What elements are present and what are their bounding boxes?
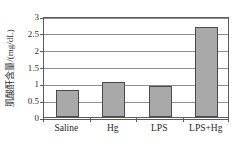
y-axis-tick-mark bbox=[40, 18, 44, 19]
y-axis-tick-label: 2 bbox=[35, 46, 40, 55]
bar-lps-plus-hg bbox=[195, 27, 218, 117]
y-axis-tick-label: 1.5 bbox=[28, 63, 39, 72]
gridline bbox=[44, 18, 228, 19]
x-axis-tick-mark bbox=[228, 118, 229, 122]
x-axis-tick-label: LPS+Hg bbox=[189, 124, 222, 134]
bar-saline bbox=[56, 90, 79, 117]
x-axis-tick-mark bbox=[136, 118, 137, 122]
y-axis-title: 肌酸酐含量/(mg/dL) bbox=[6, 29, 15, 107]
x-axis-tick-mark bbox=[183, 118, 184, 122]
bar-hg bbox=[102, 82, 125, 117]
plot-inner bbox=[44, 18, 228, 117]
plot-area bbox=[43, 17, 229, 118]
x-axis-tick-label: LPS bbox=[151, 124, 167, 134]
x-axis-tick-label: Saline bbox=[54, 124, 78, 134]
x-axis-tick-mark bbox=[43, 118, 44, 122]
y-axis-tick-label: 2.5 bbox=[28, 29, 39, 38]
bar-lps bbox=[149, 86, 172, 117]
y-axis-tick-mark bbox=[40, 51, 44, 52]
bar-chart-figure: 肌酸酐含量/(mg/dL) 00.511.522.53 SalineHgLPSL… bbox=[0, 0, 239, 149]
x-axis-tick-mark bbox=[90, 118, 91, 122]
x-axis-tick-label: Hg bbox=[107, 124, 119, 134]
y-axis-tick-label: 3 bbox=[35, 13, 40, 22]
y-axis-tick-labels: 00.511.522.53 bbox=[16, 14, 41, 118]
y-axis-tick-label: 0 bbox=[35, 114, 40, 123]
y-axis-tick-label: 0.5 bbox=[28, 97, 39, 106]
y-axis-tick-mark bbox=[40, 85, 44, 86]
y-axis-tick-mark bbox=[40, 102, 44, 103]
y-axis-tick-mark bbox=[40, 68, 44, 69]
y-axis-tick-mark bbox=[40, 34, 44, 35]
y-axis-tick-label: 1 bbox=[35, 80, 40, 89]
